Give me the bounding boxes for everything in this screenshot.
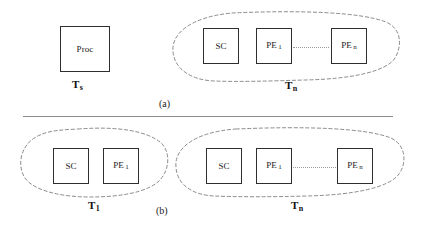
group-outline-b-t1 [21, 128, 168, 197]
link-a-pe1-pen [293, 47, 329, 49]
part-caption-b: (b) [156, 206, 168, 216]
part-caption-a: (a) [159, 99, 170, 109]
node-b-tn-pen[interactable]: PEn [337, 148, 373, 184]
node-b-tn-pe1[interactable]: PE1 [256, 148, 292, 184]
node-b-tn-sc[interactable]: SC [206, 148, 242, 184]
node-b-t1-pe1[interactable]: PE1 [103, 148, 139, 184]
group-label-a-tn-subscript: n [292, 84, 297, 93]
node-a-pe1-subscript: 1 [277, 43, 282, 51]
node-a-sc-label: SC [215, 42, 226, 51]
group-label-b-t1: T1 [88, 200, 100, 213]
node-b-tn-pe1-label: PE1 [266, 161, 282, 172]
group-label-ts-subscript: s [79, 83, 83, 92]
group-label-b-tn-subscript: n [298, 204, 303, 213]
node-a-pen[interactable]: PEn [331, 28, 367, 64]
node-a-pe1-label: PE1 [266, 41, 282, 52]
node-b-t1-pe1-label: PE1 [113, 161, 129, 172]
node-b-tn-pen-label: PEn [347, 161, 363, 172]
node-b-t1-pe1-subscript: 1 [124, 163, 129, 171]
node-a-pe1[interactable]: PE1 [256, 28, 292, 64]
link-b-tn-pe1-pen [293, 167, 336, 169]
architecture-figure: Proc Ts SC PE1 PEn Tn (a) SC PE1 [0, 0, 428, 240]
group-label-a-tn: Tn [285, 80, 297, 93]
group-label-b-t1-subscript: 1 [95, 204, 100, 213]
node-proc[interactable]: Proc [60, 26, 110, 72]
node-proc-label: Proc [77, 45, 94, 54]
group-label-b-tn: Tn [291, 200, 303, 213]
node-b-t1-sc[interactable]: SC [53, 148, 89, 184]
node-b-tn-pe1-subscript: 1 [277, 163, 282, 171]
node-a-pen-label: PEn [341, 41, 357, 52]
node-a-sc[interactable]: SC [203, 28, 239, 64]
node-b-tn-sc-label: SC [218, 162, 229, 171]
node-b-tn-pen-subscript: n [358, 163, 363, 171]
section-divider [23, 116, 393, 117]
node-b-t1-sc-label: SC [65, 162, 76, 171]
group-label-ts: Ts [72, 79, 83, 92]
node-a-pen-subscript: n [352, 43, 357, 51]
